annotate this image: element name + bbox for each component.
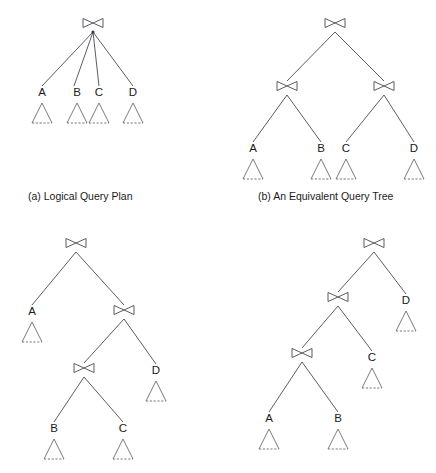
relation-triangle-icon [259, 429, 279, 449]
leaf-label-A: A [249, 142, 257, 154]
relation-triangle-icon [44, 439, 64, 459]
leaf-label-C: C [368, 351, 376, 363]
join-node-join-mid[interactable] [114, 306, 134, 315]
relation-triangle-icon [113, 439, 133, 459]
natural-join-bowtie-icon [83, 19, 103, 28]
join-node-join-left[interactable] [277, 82, 297, 91]
join-node-join-root[interactable] [83, 19, 103, 34]
relation-triangle-icon [89, 103, 109, 123]
leaf-node-A[interactable]: A [259, 412, 279, 449]
tree-edge [269, 362, 302, 412]
natural-join-bowtie-icon [325, 19, 345, 28]
tree-edge [302, 306, 338, 348]
tree-edge [93, 32, 133, 86]
leaf-node-D[interactable]: D [146, 364, 166, 401]
panel-equivalent-query-tree: ABCD [243, 19, 424, 180]
leaf-node-A[interactable]: A [243, 142, 263, 179]
natural-join-bowtie-icon [74, 364, 94, 373]
tree-edge [74, 32, 93, 86]
panel-logical-query-plan: ABCD [32, 19, 143, 124]
leaf-node-C[interactable]: C [362, 351, 382, 388]
relation-triangle-icon [22, 322, 42, 342]
leaf-node-A[interactable]: A [32, 86, 52, 123]
natural-join-bowtie-icon [114, 306, 134, 315]
relation-triangle-icon [362, 368, 382, 388]
tree-edge [287, 32, 335, 81]
join-node-join-low[interactable] [74, 364, 94, 373]
leaf-label-A: A [38, 86, 46, 98]
tree-edge [32, 252, 76, 305]
tree-edge [124, 319, 156, 364]
leaf-label-B: B [334, 412, 342, 424]
join-node-join-low[interactable] [292, 349, 312, 358]
panel-left-deep-variant-query-tree: ADBC [22, 239, 166, 460]
panel-right-deep-variant-query-tree: DCAB [259, 239, 416, 450]
natural-join-bowtie-icon [328, 293, 348, 302]
leaf-label-D: D [402, 294, 410, 306]
tree-edge [76, 252, 124, 305]
leaf-label-D: D [129, 86, 137, 98]
relation-triangle-icon [311, 159, 331, 179]
leaf-node-A[interactable]: A [22, 305, 42, 342]
leaf-node-C[interactable]: C [336, 142, 356, 179]
tree-edge [84, 377, 123, 422]
relation-triangle-icon [404, 159, 424, 179]
leaf-node-B[interactable]: B [67, 86, 87, 123]
leaf-node-B[interactable]: B [311, 142, 331, 179]
leaf-node-B[interactable]: B [44, 422, 64, 459]
join-node-join-root[interactable] [325, 19, 345, 28]
natural-join-bowtie-icon [277, 82, 297, 91]
leaf-label-D: D [152, 364, 160, 376]
relation-triangle-icon [146, 381, 166, 401]
leaf-label-B: B [50, 422, 58, 434]
tree-edge [93, 32, 99, 86]
tree-edge [42, 32, 93, 86]
relation-triangle-icon [32, 103, 52, 123]
tree-edge [84, 319, 124, 363]
tree-edge [302, 362, 338, 412]
tree-edge [253, 95, 287, 142]
leaf-node-C[interactable]: C [89, 86, 109, 123]
leaf-label-C: C [119, 422, 127, 434]
join-node-join-right[interactable] [374, 82, 394, 91]
query-tree-canvas: ABCDABCDADBCDCAB [0, 0, 436, 473]
relation-triangle-icon [123, 103, 143, 123]
caption-panel-a: (a) Logical Query Plan [28, 190, 132, 202]
leaf-label-C: C [342, 142, 350, 154]
relation-triangle-icon [67, 103, 87, 123]
caption-panel-b: (b) An Equivalent Query Tree [258, 190, 393, 202]
leaf-label-A: A [265, 412, 273, 424]
tree-edge [384, 95, 414, 142]
query-tree-figure: ABCDABCDADBCDCAB (a) Logical Query Plan … [0, 0, 436, 473]
tree-edge [338, 306, 372, 351]
leaf-label-D: D [410, 142, 418, 154]
leaf-label-C: C [95, 86, 103, 98]
join-node-join-mid[interactable] [328, 293, 348, 302]
leaf-label-B: B [317, 142, 325, 154]
leaf-node-D[interactable]: D [404, 142, 424, 179]
relation-triangle-icon [328, 429, 348, 449]
relation-triangle-icon [396, 311, 416, 331]
join-node-join-root[interactable] [66, 239, 86, 248]
tree-edge [346, 95, 384, 142]
tree-edge [338, 252, 374, 292]
leaf-label-B: B [73, 86, 81, 98]
tree-edge [54, 377, 84, 422]
leaf-node-D[interactable]: D [396, 294, 416, 331]
leaf-node-C[interactable]: C [113, 422, 133, 459]
relation-triangle-icon [336, 159, 356, 179]
leaf-node-B[interactable]: B [328, 412, 348, 449]
natural-join-bowtie-icon [292, 349, 312, 358]
tree-edge [335, 32, 384, 81]
multiway-join-dot [91, 30, 94, 33]
natural-join-bowtie-icon [364, 239, 384, 248]
relation-triangle-icon [243, 159, 263, 179]
leaf-label-A: A [28, 305, 36, 317]
tree-edge [287, 95, 321, 142]
leaf-node-D[interactable]: D [123, 86, 143, 123]
join-node-join-root[interactable] [364, 239, 384, 248]
tree-edge [374, 252, 406, 294]
natural-join-bowtie-icon [374, 82, 394, 91]
natural-join-bowtie-icon [66, 239, 86, 248]
